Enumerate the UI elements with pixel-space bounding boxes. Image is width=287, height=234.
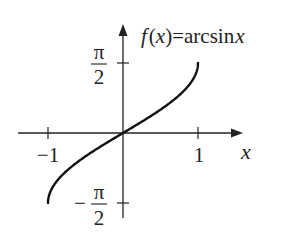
y-axis-arrow-icon <box>119 24 128 36</box>
x-tick-label-1: 1 <box>194 143 205 167</box>
arcsin-chart: −1 1 π 2 − π 2 x f(x)=arcsinx <box>0 0 287 234</box>
x-tick-label-neg1: −1 <box>37 143 59 167</box>
x-axis-label: x <box>240 139 251 164</box>
y-tick-label-neg-sign: − <box>74 191 86 215</box>
x-axis-arrow-icon <box>231 129 243 138</box>
y-tick-label-pi-den: 2 <box>94 65 105 89</box>
y-tick-label-pi-num: π <box>94 40 105 64</box>
y-tick-label-negpi-num: π <box>94 180 105 204</box>
y-tick-label-negpi-den: 2 <box>94 206 105 230</box>
chart-title: f(x)=arcsinx <box>141 24 245 48</box>
